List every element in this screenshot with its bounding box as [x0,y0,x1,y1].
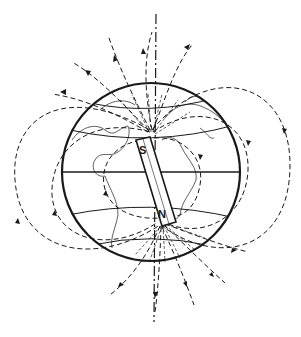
magnetic-field-diagram: S N [0,0,301,337]
arrow-icon [60,89,66,95]
arrow-icon [198,154,203,160]
arrow-icon [103,190,108,196]
arrow-icon [15,218,20,224]
magnet-north-pole-label: N [158,208,166,220]
bar-magnet: S N [136,137,176,226]
arrow-icon [141,48,146,54]
magnet-south-pole-label: S [139,144,146,156]
arrow-icon [85,70,91,76]
arrow-icon [246,140,251,146]
arrow-icon [282,128,287,134]
